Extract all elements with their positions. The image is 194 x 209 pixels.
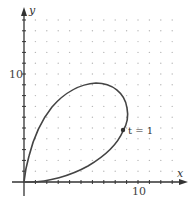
grid-dot bbox=[46, 41, 47, 42]
grid-dot bbox=[92, 160, 93, 161]
grid-dot bbox=[92, 52, 93, 53]
grid-dot bbox=[160, 84, 161, 85]
grid-dot bbox=[103, 41, 104, 42]
grid-dot bbox=[160, 171, 161, 172]
grid-dot bbox=[35, 149, 36, 150]
grid-dot bbox=[115, 84, 116, 85]
grid-dot bbox=[160, 19, 161, 20]
grid-dot bbox=[69, 138, 70, 139]
grid-dot bbox=[92, 117, 93, 118]
grid-dot bbox=[149, 138, 150, 139]
parametric-curve bbox=[24, 83, 128, 182]
y-axis-label: y bbox=[28, 4, 36, 17]
grid-dot bbox=[46, 95, 47, 96]
grid-dot bbox=[46, 149, 47, 150]
grid-dot bbox=[103, 52, 104, 53]
grid-dot bbox=[92, 106, 93, 107]
grid-dot bbox=[103, 30, 104, 31]
grid-dot bbox=[126, 84, 127, 85]
grid-dot bbox=[69, 52, 70, 53]
grid-dot bbox=[35, 52, 36, 53]
grid-dot bbox=[160, 138, 161, 139]
grid-dot bbox=[172, 160, 173, 161]
grid-dot bbox=[172, 149, 173, 150]
grid-dot bbox=[160, 52, 161, 53]
grid-dot bbox=[137, 52, 138, 53]
grid-dot bbox=[35, 160, 36, 161]
dot-grid bbox=[35, 19, 173, 172]
grid-dot bbox=[103, 63, 104, 64]
grid-dot bbox=[115, 127, 116, 128]
t1-point-label: t = 1 bbox=[128, 125, 153, 136]
grid-dot bbox=[58, 117, 59, 118]
grid-dot bbox=[137, 160, 138, 161]
grid-dot bbox=[137, 117, 138, 118]
grid-dot bbox=[103, 138, 104, 139]
grid-dot bbox=[80, 127, 81, 128]
grid-dot bbox=[69, 127, 70, 128]
grid-dot bbox=[58, 127, 59, 128]
grid-dot bbox=[80, 106, 81, 107]
grid-dot bbox=[137, 19, 138, 20]
grid-dot bbox=[58, 138, 59, 139]
grid-dot bbox=[103, 19, 104, 20]
grid-dot bbox=[172, 127, 173, 128]
grid-dot bbox=[126, 52, 127, 53]
grid-dot bbox=[172, 19, 173, 20]
grid-dot bbox=[69, 19, 70, 20]
grid-dot bbox=[35, 117, 36, 118]
grid-dot bbox=[149, 73, 150, 74]
grid-dot bbox=[80, 149, 81, 150]
x-axis-label: x bbox=[177, 167, 184, 180]
grid-dot bbox=[126, 19, 127, 20]
grid-dot bbox=[172, 63, 173, 64]
y-tick-label-10: 10 bbox=[9, 68, 23, 81]
grid-dot bbox=[46, 52, 47, 53]
grid-dot bbox=[58, 52, 59, 53]
grid-dot bbox=[149, 106, 150, 107]
grid-dot bbox=[46, 30, 47, 31]
grid-dot bbox=[160, 41, 161, 42]
grid-dot bbox=[149, 171, 150, 172]
grid-dot bbox=[58, 106, 59, 107]
grid-dot bbox=[172, 73, 173, 74]
grid-dot bbox=[35, 41, 36, 42]
grid-dot bbox=[46, 138, 47, 139]
grid-dot bbox=[58, 149, 59, 150]
grid-dot bbox=[172, 138, 173, 139]
grid-dot bbox=[46, 127, 47, 128]
grid-dot bbox=[80, 117, 81, 118]
grid-dot bbox=[126, 63, 127, 64]
grid-dot bbox=[35, 84, 36, 85]
grid-dot bbox=[80, 95, 81, 96]
grid-dot bbox=[103, 95, 104, 96]
grid-dot bbox=[172, 52, 173, 53]
grid-dot bbox=[126, 138, 127, 139]
grid-dot bbox=[115, 106, 116, 107]
grid-dot bbox=[115, 73, 116, 74]
grid-dot bbox=[103, 106, 104, 107]
grid-dot bbox=[103, 73, 104, 74]
grid-dot bbox=[58, 30, 59, 31]
grid-dot bbox=[103, 127, 104, 128]
grid-dot bbox=[46, 84, 47, 85]
grid-dot bbox=[137, 41, 138, 42]
grid-dot bbox=[137, 138, 138, 139]
grid-dot bbox=[46, 106, 47, 107]
grid-dot bbox=[149, 52, 150, 53]
grid-dot bbox=[35, 73, 36, 74]
grid-dot bbox=[126, 149, 127, 150]
grid-dot bbox=[115, 30, 116, 31]
grid-dot bbox=[115, 95, 116, 96]
grid-dot bbox=[35, 95, 36, 96]
grid-dot bbox=[92, 138, 93, 139]
grid-dot bbox=[58, 160, 59, 161]
grid-dot bbox=[69, 63, 70, 64]
grid-dot bbox=[137, 73, 138, 74]
grid-dot bbox=[92, 19, 93, 20]
grid-dot bbox=[149, 117, 150, 118]
grid-dot bbox=[103, 160, 104, 161]
grid-dot bbox=[160, 106, 161, 107]
grid-dot bbox=[69, 117, 70, 118]
t1-point-marker bbox=[121, 128, 125, 132]
